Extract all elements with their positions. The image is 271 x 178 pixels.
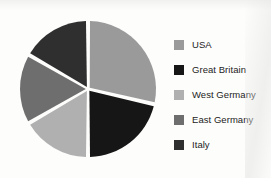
legend-item-great-britain[interactable]: Great Britain — [172, 57, 271, 82]
pie-chart-svg — [0, 0, 172, 178]
legend-label-usa: USA — [192, 40, 212, 50]
legend-label-italy: Italy — [192, 140, 210, 150]
legend-label-west-germany: West Germany — [192, 90, 256, 100]
pie-chart-plot-area — [0, 0, 172, 178]
legend-item-italy[interactable]: Italy — [172, 132, 271, 157]
legend-label-great-britain: Great Britain — [192, 65, 246, 75]
chart-legend: USA Great Britain West Germany East Germ… — [172, 32, 271, 157]
pie-chart-figure: USA Great Britain West Germany East Germ… — [0, 0, 271, 178]
legend-item-east-germany[interactable]: East Germany — [172, 107, 271, 132]
legend-swatch-east-germany — [174, 115, 184, 125]
legend-swatch-italy — [174, 140, 184, 150]
legend-swatch-great-britain — [174, 65, 184, 75]
legend-swatch-west-germany — [174, 90, 184, 100]
pie-slices-group — [20, 21, 156, 157]
pie-slice-usa[interactable] — [90, 21, 156, 102]
legend-item-usa[interactable]: USA — [172, 32, 271, 57]
legend-label-east-germany: East Germany — [192, 115, 253, 125]
pie-slice-great-britain[interactable] — [89, 91, 153, 157]
legend-item-west-germany[interactable]: West Germany — [172, 82, 271, 107]
legend-swatch-usa — [174, 40, 184, 50]
